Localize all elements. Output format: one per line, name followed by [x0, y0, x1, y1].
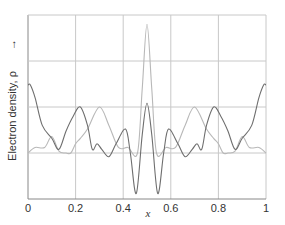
- x-axis-label: x: [145, 207, 151, 219]
- y-axis-label-group: Electron density, ρ →: [6, 39, 18, 161]
- x-tick-label: 0.6: [163, 202, 178, 214]
- x-tick-label: 1: [263, 202, 269, 214]
- dark-curve-line: [28, 84, 266, 194]
- x-tick-label: 0.2: [68, 202, 83, 214]
- grid-lines: [28, 15, 266, 199]
- x-tick-label: 0: [25, 202, 31, 214]
- x-tick-label: 0.8: [211, 202, 226, 214]
- data-curves: [28, 24, 266, 193]
- y-axis-label: Electron density, ρ: [6, 71, 18, 161]
- y-axis-arrow-icon: →: [6, 39, 18, 50]
- x-tick-label: 0.4: [116, 202, 131, 214]
- electron-density-chart: 00.20.40.60.81 x Electron density, ρ →: [0, 0, 285, 225]
